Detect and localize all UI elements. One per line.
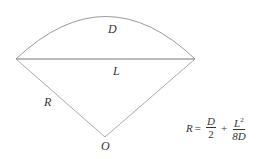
formula-plus: + bbox=[221, 122, 227, 134]
fraction-denominator: 8D bbox=[232, 130, 245, 142]
label-r: R bbox=[44, 95, 51, 110]
numerator-exponent: 2 bbox=[240, 116, 244, 124]
fraction-l2-over-8d: L2 8D bbox=[232, 114, 245, 142]
arc bbox=[16, 17, 195, 60]
fraction-denominator: 2 bbox=[208, 128, 214, 140]
fraction-d-over-2: D 2 bbox=[206, 115, 216, 140]
label-d: D bbox=[108, 22, 117, 37]
label-o: O bbox=[101, 139, 110, 154]
radius-line-left bbox=[16, 59, 105, 137]
label-l: L bbox=[113, 64, 120, 79]
fraction-numerator: L2 bbox=[233, 114, 245, 130]
fraction-numerator: D bbox=[206, 115, 216, 128]
radius-formula: R = D 2 + L2 8D bbox=[186, 114, 249, 142]
formula-equals: = bbox=[195, 122, 201, 134]
formula-lhs: R bbox=[186, 122, 193, 134]
